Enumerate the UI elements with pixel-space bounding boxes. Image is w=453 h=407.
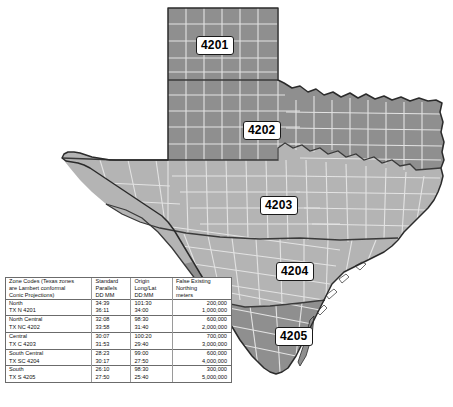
row-origin: 99:00 <box>131 349 172 357</box>
row-parallels: 31:53 <box>92 341 131 349</box>
zone-codes-legend-table: Zone Codes (Texas zones Standard Origin … <box>5 277 232 383</box>
row-origin: 29:40 <box>131 341 172 349</box>
row-northing: 700,000 <box>172 333 231 341</box>
zone-label-4202: 4202 <box>243 121 281 140</box>
row-northing: 600,000 <box>172 316 231 324</box>
zone-label-4204: 4204 <box>276 262 314 281</box>
header-name-line1: Zone Codes (Texas zones <box>6 278 92 285</box>
table-row: South Central 28:23 99:00 600,000 <box>6 349 231 357</box>
row-parallels: 33:58 <box>92 324 131 332</box>
table-row: Central 30:07 100:20 700,000 <box>6 333 231 341</box>
table-row: TX C 4203 31:53 29:40 3,000,000 <box>6 341 231 349</box>
row-origin: 98:30 <box>131 316 172 324</box>
row-origin: 27:50 <box>131 358 172 366</box>
header-origin-line3: DD:MM <box>131 292 172 299</box>
zone-label-4203: 4203 <box>260 196 298 215</box>
row-parallels: 32:08 <box>92 316 131 324</box>
row-name: TX C 4203 <box>6 341 92 349</box>
row-name: TX S 4205 <box>6 374 92 382</box>
row-northing: 5,000,000 <box>172 374 231 382</box>
header-parallels-line2: Parallels <box>92 285 131 292</box>
legend-header-row-3: Conic Projections) DD MM DD:MM meters <box>6 292 231 299</box>
table-row: TX SC 4204 30:17 27:50 4,000,000 <box>6 358 231 366</box>
row-name: North Central <box>6 316 92 324</box>
zone-label-4205: 4205 <box>275 327 313 346</box>
header-northing-line1: False Existing <box>172 278 231 285</box>
row-origin: 101:30 <box>131 299 172 307</box>
header-name-line2: are Lambert conformal <box>6 285 92 292</box>
table-row: TX S 4205 27:50 25:40 5,000,000 <box>6 374 231 382</box>
row-origin: 25:40 <box>131 374 172 382</box>
row-name: Central <box>6 333 92 341</box>
row-name: TX NC 4202 <box>6 324 92 332</box>
row-name: TX N 4201 <box>6 307 92 315</box>
row-name: North <box>6 299 92 307</box>
table-row: North Central 32:08 98:30 600,000 <box>6 316 231 324</box>
header-name-line3: Conic Projections) <box>6 292 92 299</box>
legend-table-body: Zone Codes (Texas zones Standard Origin … <box>6 278 231 382</box>
row-name: South <box>6 366 92 374</box>
row-northing: 1,000,000 <box>172 307 231 315</box>
row-parallels: 28:23 <box>92 349 131 357</box>
row-parallels: 30:17 <box>92 358 131 366</box>
legend-header-row-2: are Lambert conformal Parallels Long/Lat… <box>6 285 231 292</box>
row-parallels: 36:11 <box>92 307 131 315</box>
row-northing: 600,000 <box>172 349 231 357</box>
map-page: 4201 4202 4203 4204 4205 Zone Codes (Tex… <box>0 0 453 407</box>
row-northing: 200,000 <box>172 299 231 307</box>
header-parallels-line1: Standard <box>92 278 131 285</box>
table-row: South 26:10 98:30 300,000 <box>6 366 231 374</box>
row-parallels: 27:50 <box>92 374 131 382</box>
row-origin: 100:20 <box>131 333 172 341</box>
header-northing-line2: Northing <box>172 285 231 292</box>
header-origin-line1: Origin <box>131 278 172 285</box>
row-northing: 300,000 <box>172 366 231 374</box>
row-northing: 3,000,000 <box>172 341 231 349</box>
row-name: South Central <box>6 349 92 357</box>
row-origin: 34:00 <box>131 307 172 315</box>
header-origin-line2: Long/Lat <box>131 285 172 292</box>
row-name: TX SC 4204 <box>6 358 92 366</box>
table-row: TX N 4201 36:11 34:00 1,000,000 <box>6 307 231 315</box>
legend-table-element: Zone Codes (Texas zones Standard Origin … <box>6 278 231 382</box>
row-origin: 31:40 <box>131 324 172 332</box>
header-parallels-line3: DD MM <box>92 292 131 299</box>
table-row: North 34:39 101:30 200,000 <box>6 299 231 307</box>
row-origin: 98:30 <box>131 366 172 374</box>
header-northing-line3: meters <box>172 292 231 299</box>
row-northing: 2,000,000 <box>172 324 231 332</box>
row-northing: 4,000,000 <box>172 358 231 366</box>
row-parallels: 26:10 <box>92 366 131 374</box>
table-row: TX NC 4202 33:58 31:40 2,000,000 <box>6 324 231 332</box>
zone-label-4201: 4201 <box>196 36 234 55</box>
row-parallels: 30:07 <box>92 333 131 341</box>
row-parallels: 34:39 <box>92 299 131 307</box>
legend-header-row-1: Zone Codes (Texas zones Standard Origin … <box>6 278 231 285</box>
